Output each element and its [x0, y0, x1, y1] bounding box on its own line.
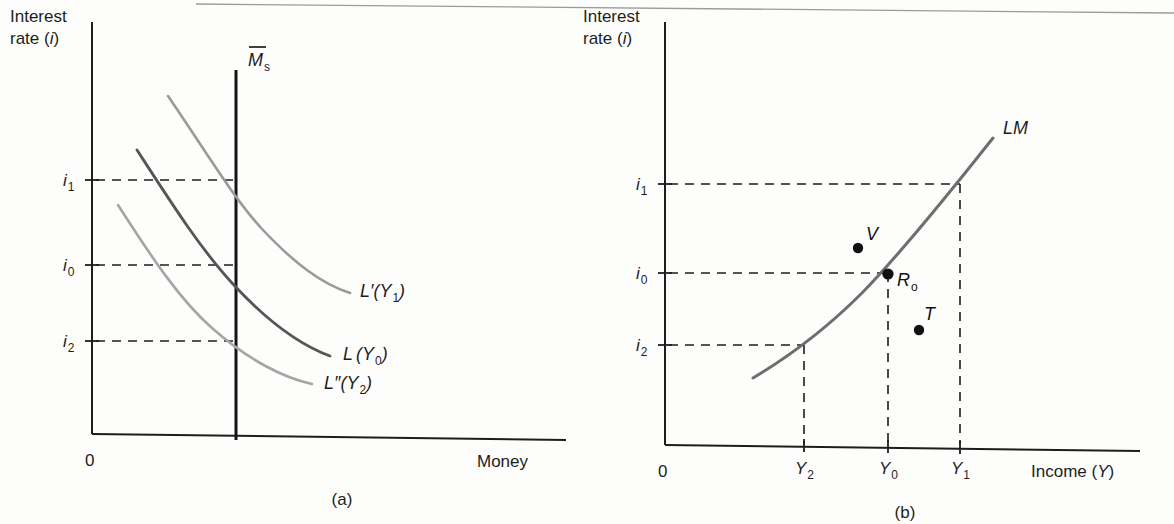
panel-b-x-axis-label: Income (Y) — [1031, 462, 1114, 481]
panel-a-caption: (a) — [332, 490, 353, 509]
panel-a-ytick-label-i0: i0 — [63, 256, 75, 279]
svg-text:Ms: Ms — [248, 50, 270, 74]
point-T-marker — [914, 325, 924, 335]
panel-a-ytick-label-i2: i2 — [63, 332, 75, 355]
panel-a-origin-label: 0 — [85, 451, 94, 470]
money-supply-label: Ms — [248, 47, 270, 74]
panel-b-xtick-label-Y0: Y0 — [879, 459, 898, 482]
panel-b-y-axis-label-line2: rate (i) — [583, 29, 632, 48]
panel-b-ytick-label-i2: i2 — [636, 336, 648, 359]
panel-b-ytick-label-i0: i0 — [636, 264, 648, 287]
point-T-label: T — [924, 304, 937, 324]
figure-svg: Interest rate (i) i1 i0 i2 Ms — [0, 0, 1174, 524]
panel-a-x-axis — [92, 434, 566, 440]
panel-b-x-axis — [665, 445, 1140, 451]
panel-b-xtick-label-Y2: Y2 — [795, 459, 814, 482]
curve-L-prime-Y1 — [168, 96, 350, 293]
panel-a: Interest rate (i) i1 i0 i2 Ms — [10, 7, 566, 509]
panel-a-ytick-label-i1: i1 — [63, 171, 75, 194]
panel-b: Interest rate (i) i1 i0 i2 Y2 Y0 — [583, 7, 1140, 522]
curve-label-L-prime-Y1: L′(Y1) — [360, 281, 405, 305]
lm-curve — [753, 138, 993, 378]
panel-b-xtick-label-Y1: Y1 — [951, 459, 970, 482]
panel-b-ytick-label-i1: i1 — [636, 175, 648, 198]
curve-L-Y0 — [137, 150, 330, 356]
page-top-rule — [196, 4, 1174, 13]
curve-label-L-Y0: L(Y0) — [343, 344, 388, 368]
panel-a-x-axis-label: Money — [477, 452, 529, 471]
curve-L-double-prime-Y2 — [118, 205, 312, 384]
curve-label-L-double-prime-Y2: L″(Y2) — [324, 373, 372, 397]
point-R0-marker — [882, 268, 893, 279]
point-V-label: V — [866, 224, 880, 244]
lm-curve-label: LM — [1003, 118, 1028, 138]
panel-a-y-axis-label-line1: Interest — [10, 7, 67, 26]
point-V-marker — [853, 243, 863, 253]
panel-b-caption: (b) — [895, 503, 916, 522]
figure-root: Interest rate (i) i1 i0 i2 Ms — [0, 0, 1174, 524]
panel-b-y-axis-label-line1: Interest — [583, 7, 640, 26]
panel-a-y-axis-label-line2: rate (i) — [10, 29, 59, 48]
point-R0-label: Ro — [897, 270, 918, 294]
panel-b-origin-label: 0 — [658, 462, 667, 481]
